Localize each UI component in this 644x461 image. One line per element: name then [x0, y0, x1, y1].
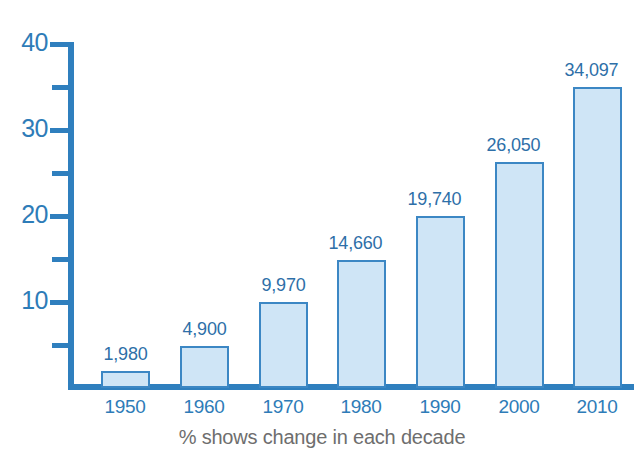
y-axis-tick — [52, 257, 74, 262]
x-axis-label: 1950 — [85, 396, 165, 418]
bar-value-label: 34,097 — [551, 60, 632, 81]
bar-value-label: 1,980 — [85, 344, 166, 365]
y-axis-tick — [50, 128, 74, 133]
x-axis-label: 2010 — [557, 396, 637, 418]
y-axis-tick — [52, 343, 74, 348]
y-axis-tick — [52, 85, 74, 90]
x-axis-label: 1980 — [321, 396, 401, 418]
bar — [416, 216, 465, 388]
bar — [573, 87, 622, 388]
bar-value-label: 19,740 — [394, 189, 475, 210]
y-axis-tick — [52, 171, 74, 176]
y-axis-label: 40 — [0, 28, 48, 57]
y-axis-tick — [50, 214, 74, 219]
bar-value-label: 9,970 — [243, 275, 324, 296]
bar — [337, 260, 386, 388]
x-axis-label: 1970 — [243, 396, 323, 418]
footer-note: % shows change in each decade — [0, 426, 644, 449]
bar-chart: 40302010 1,9804,9009,97014,66019,74026,0… — [0, 0, 644, 461]
bar — [101, 371, 150, 388]
x-axis-label: 1960 — [164, 396, 244, 418]
y-axis-label: 30 — [0, 114, 48, 143]
bar-value-label: 26,050 — [473, 135, 554, 156]
plot-area: 40302010 1,9804,9009,97014,66019,74026,0… — [0, 0, 644, 400]
bar-value-label: 14,660 — [315, 233, 396, 254]
y-axis-label: 10 — [0, 286, 48, 315]
y-axis-label: 20 — [0, 200, 48, 229]
bar — [495, 162, 544, 388]
bar — [180, 346, 229, 388]
y-axis-tick — [50, 300, 74, 305]
x-axis-label: 1990 — [400, 396, 480, 418]
bar — [259, 302, 308, 388]
bar-value-label: 4,900 — [164, 319, 245, 340]
y-axis-tick — [50, 42, 74, 47]
x-axis-label: 2000 — [479, 396, 559, 418]
